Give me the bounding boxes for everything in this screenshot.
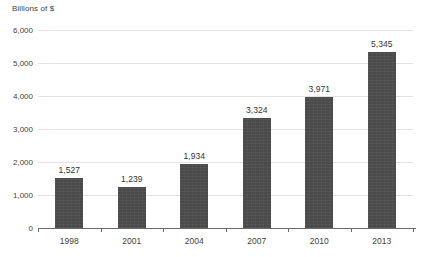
bar[interactable] xyxy=(55,178,83,228)
x-category-label: 1998 xyxy=(60,236,79,246)
bar[interactable] xyxy=(368,52,396,228)
bar[interactable] xyxy=(305,97,333,228)
bar-value-label: 1,527 xyxy=(59,165,80,175)
y-tick-label: 1,000 xyxy=(0,191,33,200)
y-tick-label: 5,000 xyxy=(0,59,33,68)
y-tick-label: 3,000 xyxy=(0,125,33,134)
x-category-label: 2010 xyxy=(310,236,329,246)
bar-group: 3,324 xyxy=(226,30,289,228)
bar[interactable] xyxy=(118,187,146,228)
bar-group: 1,934 xyxy=(163,30,226,228)
x-axis-tick xyxy=(351,228,352,232)
bar-group: 3,971 xyxy=(288,30,351,228)
x-category-label: 2013 xyxy=(372,236,391,246)
x-category-label: 2001 xyxy=(122,236,141,246)
y-axis-title: Billions of $ xyxy=(12,4,54,13)
bar-chart: Billions of $ 01,0002,0003,0004,0005,000… xyxy=(0,0,427,257)
x-axis-tick xyxy=(226,228,227,232)
x-category-label: 2004 xyxy=(185,236,204,246)
x-axis-tick xyxy=(163,228,164,232)
x-axis-tick xyxy=(38,228,39,232)
bars-layer: 1,5271,2391,9343,3243,9715,345 xyxy=(38,30,413,228)
bar-value-label: 3,324 xyxy=(246,105,267,115)
bar-group: 1,239 xyxy=(101,30,164,228)
x-axis-line xyxy=(38,228,416,229)
y-tick-label: 4,000 xyxy=(0,92,33,101)
bar-value-label: 5,345 xyxy=(371,39,392,49)
bar-group: 5,345 xyxy=(351,30,414,228)
bar[interactable] xyxy=(180,164,208,228)
x-axis-tick xyxy=(288,228,289,232)
x-axis-tick xyxy=(101,228,102,232)
x-axis-tick xyxy=(413,228,414,232)
bar-group: 1,527 xyxy=(38,30,101,228)
x-category-label: 2007 xyxy=(247,236,266,246)
bar[interactable] xyxy=(243,118,271,228)
bar-value-label: 1,239 xyxy=(121,174,142,184)
y-tick-label: 6,000 xyxy=(0,26,33,35)
y-tick-label: 0 xyxy=(0,224,33,233)
bar-value-label: 1,934 xyxy=(184,151,205,161)
y-tick-label: 2,000 xyxy=(0,158,33,167)
bar-value-label: 3,971 xyxy=(309,84,330,94)
